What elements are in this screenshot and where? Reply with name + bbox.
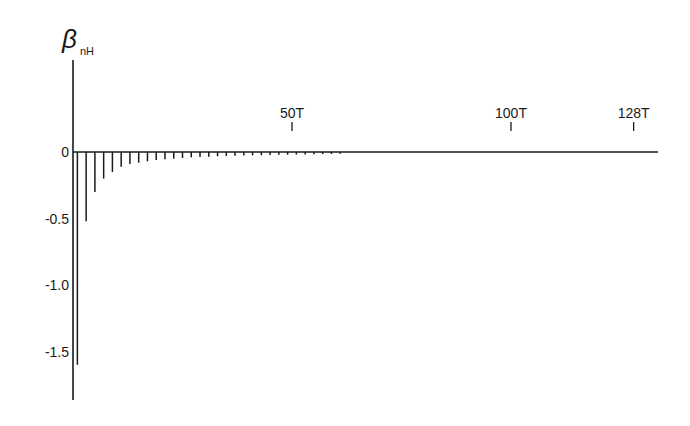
y-tick-label: -1.0 [45,277,69,293]
y-axis-label: β nH [61,24,94,57]
y-tick-labels: 0-0.5-1.0-1.5 [45,144,69,360]
beta-symbol: β [61,24,77,54]
x-tick-label: 50T [280,105,305,121]
stem-chart: β nH 0-0.5-1.0-1.5 50T100T128T [0,0,690,426]
beta-subscript: nH [80,45,94,57]
stems [77,152,340,365]
x-tick-label: 100T [495,105,527,121]
y-tick-label: -0.5 [45,211,69,227]
x-tick-labels: 50T100T128T [280,105,650,131]
y-tick-label: 0 [61,144,69,160]
x-tick-label: 128T [618,105,650,121]
y-tick-label: -1.5 [45,344,69,360]
